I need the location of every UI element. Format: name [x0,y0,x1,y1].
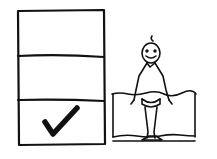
checkmark-icon [45,108,77,134]
illustration [0,0,217,159]
stick-figure-icon [131,36,172,140]
row-divider [18,100,104,101]
row-divider [18,55,104,57]
